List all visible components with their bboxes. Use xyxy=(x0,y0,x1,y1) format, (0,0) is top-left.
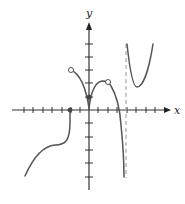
left-cubic-curve xyxy=(25,110,70,176)
closed-point-marker xyxy=(68,108,72,112)
hump-curve xyxy=(89,81,124,177)
open-point-marker xyxy=(69,68,74,73)
x-axis-arrow-icon xyxy=(164,107,171,113)
open-point-marker xyxy=(106,80,111,85)
y-axis-label: y xyxy=(85,7,93,20)
y-axis-arrow-icon xyxy=(86,22,92,30)
x-axis-label: x xyxy=(174,104,181,117)
cusp-left-curve xyxy=(71,70,89,108)
function-graph: x y xyxy=(0,0,185,204)
right-parabola-curve xyxy=(127,44,153,87)
closed-point-marker xyxy=(87,95,91,99)
